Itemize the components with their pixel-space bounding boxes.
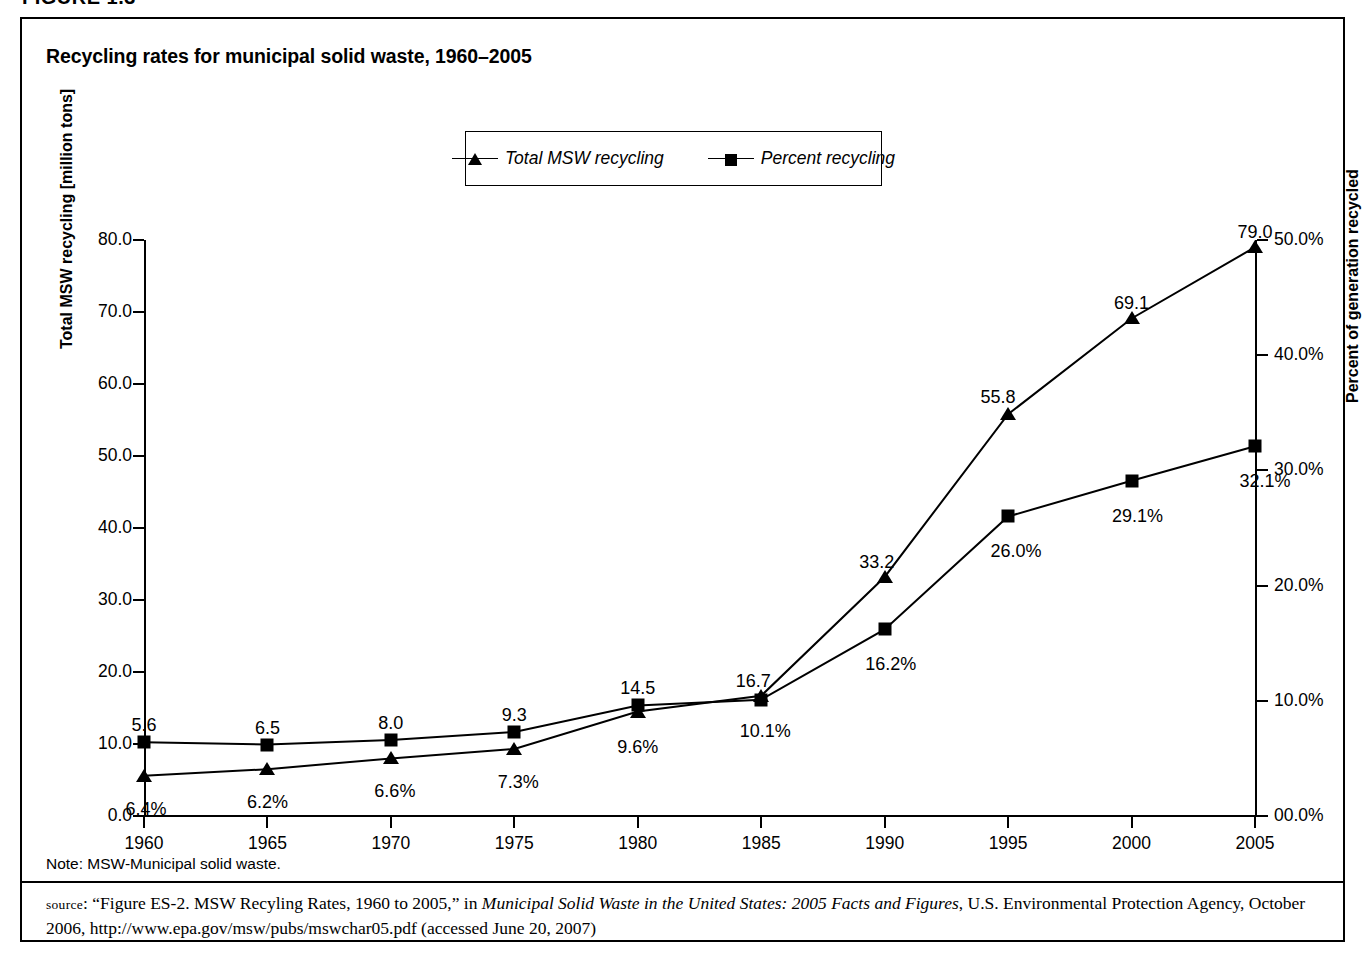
chart-title: Recycling rates for municipal solid wast… — [46, 45, 532, 68]
data-point-marker-triangle — [136, 769, 152, 782]
data-point-marker-triangle — [506, 742, 522, 755]
figure-box: Recycling rates for municipal solid wast… — [20, 17, 1345, 942]
chart-legend: Total MSW recycling Percent recycling — [465, 131, 882, 186]
x-axis-tick-label: 1975 — [495, 833, 534, 854]
triangle-marker-icon — [452, 151, 498, 167]
footer-divider — [22, 881, 1343, 883]
data-label-tons: 5.6 — [131, 716, 156, 734]
data-point-marker-square — [1125, 474, 1138, 487]
data-label-tons: 33.2 — [859, 553, 894, 571]
y-axis-right-tick-label: 20.0% — [1274, 577, 1324, 595]
data-point-marker-square — [1249, 440, 1262, 453]
data-label-tons: 69.1 — [1114, 294, 1149, 312]
data-point-marker-square — [508, 725, 521, 738]
x-axis-tick-label: 1965 — [248, 833, 287, 854]
legend-label-total-msw-recycling: Total MSW recycling — [505, 148, 664, 169]
source-part1: “Figure ES-2. MSW Recyling Rates, 1960 t… — [92, 893, 482, 913]
data-label-percent: 6.2% — [247, 793, 288, 811]
data-label-tons: 79.0 — [1237, 223, 1272, 241]
x-axis-tick-label: 1970 — [371, 833, 410, 854]
y-axis-right-tick-label: 00.0% — [1274, 807, 1324, 825]
data-point-marker-square — [878, 623, 891, 636]
data-label-percent: 10.1% — [740, 722, 791, 740]
y-axis-right-title: Percent of generation recycled — [1344, 169, 1362, 403]
data-label-tons: 55.8 — [981, 388, 1016, 406]
data-label-percent: 6.4% — [125, 800, 166, 818]
data-label-percent: 7.3% — [498, 773, 539, 791]
x-axis-tick-label: 1980 — [618, 833, 657, 854]
data-point-marker-square — [1002, 510, 1015, 523]
x-axis-tick-label: 1990 — [865, 833, 904, 854]
y-axis-right-tick-label: 10.0% — [1274, 692, 1324, 710]
data-point-marker-square — [384, 733, 397, 746]
y-axis-left-title: Total MSW recycling [million tons] — [58, 89, 76, 349]
x-axis-tick-label: 2000 — [1112, 833, 1151, 854]
data-label-percent: 29.1% — [1112, 507, 1163, 525]
data-label-percent: 32.1% — [1239, 472, 1290, 490]
x-axis-tick-label: 2005 — [1236, 833, 1275, 854]
source-citation: source: “Figure ES-2. MSW Recyling Rates… — [46, 891, 1326, 941]
data-label-percent: 16.2% — [865, 655, 916, 673]
data-label-tons: 14.5 — [620, 679, 655, 697]
series-lines — [124, 219, 1279, 829]
plot-area: 0.010.020.030.040.050.060.070.080.0 00.0… — [124, 219, 1279, 829]
y-axis-right-tick-label: 50.0% — [1274, 231, 1324, 249]
data-point-marker-triangle — [259, 762, 275, 775]
figure-number-header: FIGURE 1.3 — [22, 0, 136, 9]
data-label-percent: 26.0% — [991, 542, 1042, 560]
data-label-tons: 9.3 — [502, 706, 527, 724]
legend-label-percent-recycling: Percent recycling — [761, 148, 895, 169]
data-point-marker-square — [261, 738, 274, 751]
data-label-percent: 6.6% — [374, 782, 415, 800]
source-label: source — [46, 897, 83, 912]
data-label-percent: 9.6% — [617, 738, 658, 756]
square-marker-icon — [708, 151, 754, 167]
data-point-marker-triangle — [1000, 407, 1016, 420]
data-point-marker-square — [755, 693, 768, 706]
data-point-marker-square — [631, 699, 644, 712]
legend-item-percent-recycling: Percent recycling — [708, 148, 895, 169]
note-text: Note: MSW-Municipal solid waste. — [46, 855, 281, 873]
source-title-italic: Municipal Solid Waste in the United Stat… — [482, 893, 959, 913]
data-label-tons: 6.5 — [255, 719, 280, 737]
x-axis-tick-label: 1960 — [125, 833, 164, 854]
data-label-tons: 16.7 — [736, 672, 771, 690]
data-point-marker-triangle — [383, 751, 399, 764]
data-label-tons: 8.0 — [378, 714, 403, 732]
x-axis-tick-label: 1995 — [989, 833, 1028, 854]
x-axis-tick-label: 1985 — [742, 833, 781, 854]
data-point-marker-square — [138, 736, 151, 749]
legend-item-total-msw-recycling: Total MSW recycling — [452, 148, 664, 169]
y-axis-right-tick-label: 40.0% — [1274, 346, 1324, 364]
source-colon: : — [83, 893, 92, 913]
